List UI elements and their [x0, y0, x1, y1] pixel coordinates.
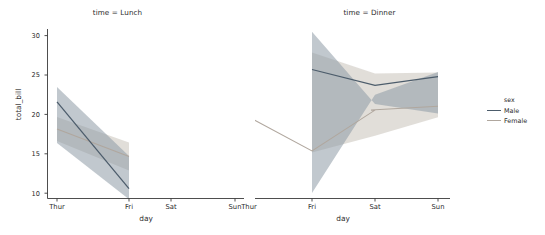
- ytick-label-30: 30: [24, 32, 40, 40]
- seaborn-relplot-figure: time = Lunch 3: [0, 0, 545, 235]
- ytick-label-25: 25: [24, 71, 40, 79]
- ytick-label-15: 15: [24, 150, 40, 158]
- xtick-label-sun-dinner: Sun: [418, 203, 458, 211]
- xtick-label-thur: Thur: [37, 203, 77, 211]
- facet-dinner: time = Dinner Thur: [255, 0, 480, 235]
- ytick-label-20: 20: [24, 111, 40, 119]
- y-axis-label-wrap: total_bill: [10, 0, 24, 235]
- ytick-label-10: 10: [24, 190, 40, 198]
- x-axis-label-dinner: day: [293, 214, 393, 223]
- xtick-label-thur-dinner: Thur: [229, 203, 269, 211]
- legend-title: sex: [504, 96, 545, 103]
- legend: sex Male Female: [487, 96, 545, 126]
- xtick-label-sat-dinner: Sat: [355, 203, 395, 211]
- legend-item-male[interactable]: Male: [487, 106, 545, 116]
- legend-label-male: Male: [504, 107, 519, 115]
- xtick-label-sat: Sat: [151, 203, 191, 211]
- dinner-plot-area: [255, 0, 480, 235]
- xtick-label-fri: Fri: [109, 203, 149, 211]
- legend-swatch-female-icon: [487, 120, 501, 122]
- facet-lunch: time = Lunch 3: [0, 0, 255, 235]
- legend-swatch-male-icon: [487, 110, 501, 112]
- x-axis-label-lunch: day: [96, 214, 196, 223]
- xtick-label-fri-dinner: Fri: [292, 203, 332, 211]
- legend-item-female[interactable]: Female: [487, 116, 545, 126]
- legend-label-female: Female: [504, 117, 527, 125]
- y-axis-label: total_bill: [14, 75, 23, 135]
